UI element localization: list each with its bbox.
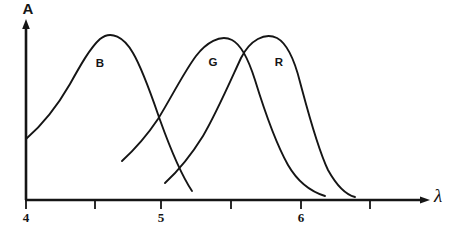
y-axis-title: A <box>23 0 34 17</box>
x-tick-label-6: 6 <box>298 210 305 225</box>
y-axis <box>22 19 30 200</box>
x-tick-label-5: 5 <box>158 210 165 225</box>
curve-label-r: R <box>275 56 284 68</box>
x-axis-arrowhead <box>420 196 430 203</box>
chart-canvas: 4 5 6 A λ B G R <box>0 0 460 241</box>
x-axis-ticks <box>26 200 370 209</box>
curve-b <box>26 35 192 191</box>
curve-label-b: B <box>96 57 104 69</box>
x-axis-title: λ <box>433 185 442 206</box>
curve-label-g: G <box>209 56 218 68</box>
x-axis-tick-labels: 4 5 6 <box>23 210 305 225</box>
spectral-absorbance-figure: 4 5 6 A λ B G R <box>0 0 460 241</box>
curve-group <box>26 35 355 197</box>
x-tick-label-4: 4 <box>23 210 30 225</box>
y-axis-arrowhead <box>22 19 30 29</box>
curve-labels: B G R <box>96 56 284 69</box>
